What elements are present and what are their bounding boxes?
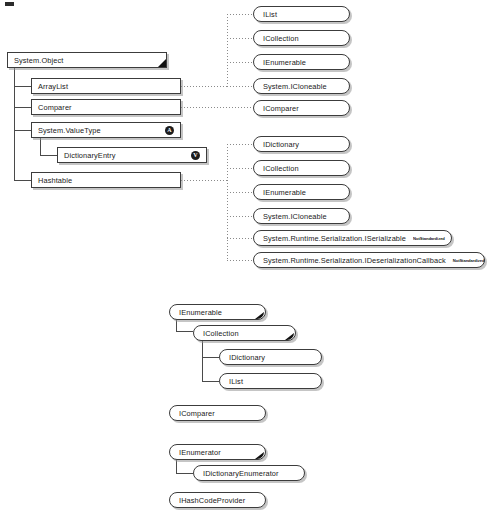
connector-stub-dictionaryentry	[40, 155, 57, 156]
abstract-badge-icon: A	[165, 126, 174, 135]
connector-stub-idictionary-bottom	[202, 357, 219, 358]
fold-corner-icon	[158, 59, 166, 67]
class-box-comparer[interactable]: Comparer	[31, 99, 181, 115]
interface-pill-ienumerator[interactable]: IEnumerator	[169, 444, 266, 460]
interface-pill-iserializable[interactable]: System.Runtime.Serialization.ISerializab…	[253, 230, 452, 246]
not-standardized-tag: NotStandardized	[413, 236, 445, 241]
interface-pill-idictionary-hashtable[interactable]: IDictionary	[253, 136, 350, 152]
connector-stub-idictionaryenumerator	[176, 473, 193, 474]
interface-label: IEnumerator	[179, 448, 221, 457]
interface-label: IHashCodeProvider	[179, 496, 245, 505]
interface-label: IList	[229, 377, 243, 386]
interface-pill-icomparer-top[interactable]: IComparer	[253, 100, 350, 116]
interface-pill-system-icloneable-hashtable[interactable]: System.ICloneable	[253, 208, 350, 224]
interface-label: IComparer	[179, 409, 215, 418]
dotted-stub-ienumerable-2	[227, 192, 253, 193]
interface-pill-icollection-bottom[interactable]: ICollection	[193, 325, 296, 341]
class-label: Comparer	[38, 103, 72, 112]
connector-trunk-icollection-bottom	[202, 339, 203, 381]
interface-label: IComparer	[263, 104, 299, 113]
dotted-connector-hashtable	[181, 180, 227, 181]
interface-label: System.Runtime.Serialization.ISerializab…	[263, 234, 406, 243]
connector-stub-arraylist	[14, 86, 31, 87]
class-label: System.ValueType	[38, 126, 101, 135]
class-label: DictionaryEntry	[64, 151, 116, 160]
class-box-hashtable[interactable]: Hashtable	[31, 172, 181, 188]
interface-label: ICollection	[263, 164, 299, 173]
interface-pill-idictionary-bottom[interactable]: IDictionary	[219, 349, 322, 365]
interface-pill-icomparer-bottom[interactable]: IComparer	[169, 405, 266, 421]
dotted-stub-iserializable	[227, 238, 253, 239]
class-box-arraylist[interactable]: ArrayList	[31, 78, 181, 94]
fold-corner-icon	[255, 312, 264, 319]
interface-label: IDictionary	[229, 353, 265, 362]
connector-trunk-valuetype	[40, 138, 41, 155]
dotted-stub-idictionary	[227, 144, 253, 145]
interface-pill-ideserializationcallback[interactable]: System.Runtime.Serialization.IDeserializ…	[253, 252, 485, 268]
class-box-dictionaryentry[interactable]: DictionaryEntry V	[57, 147, 207, 163]
interface-label: ICollection	[203, 329, 239, 338]
interface-pill-icollection-top[interactable]: ICollection	[253, 30, 350, 46]
connector-stub-ilist-bottom	[202, 381, 219, 382]
connector-stub-comparer	[14, 107, 31, 108]
interface-pill-system-icloneable-top[interactable]: System.ICloneable	[253, 78, 350, 94]
connector-stub-valuetype	[14, 130, 31, 131]
interface-pill-ihashcodeprovider[interactable]: IHashCodeProvider	[169, 492, 266, 508]
scan-artifact	[5, 2, 14, 6]
interface-pill-ienumerable-hashtable[interactable]: IEnumerable	[253, 184, 350, 200]
interface-label: ICollection	[263, 34, 299, 43]
fold-corner-icon	[255, 452, 264, 459]
class-diagram-canvas: System.Object ArrayList Comparer System.…	[0, 0, 489, 511]
interface-label: IDictionary	[263, 140, 299, 149]
dotted-bus-hashtable	[227, 144, 228, 260]
dotted-stub-icollection-1	[227, 38, 253, 39]
class-label: Hashtable	[38, 176, 72, 185]
connector-trunk-object	[14, 66, 15, 180]
fold-corner-icon	[285, 333, 294, 340]
dotted-bus-arraylist	[227, 14, 228, 86]
dotted-stub-ilist	[227, 14, 253, 15]
interface-label: IDictionaryEnumerator	[203, 469, 279, 478]
interface-label: IEnumerable	[179, 308, 222, 317]
class-label: System.Object	[14, 56, 63, 65]
class-label: ArrayList	[38, 82, 68, 91]
dotted-connector-comparer	[181, 107, 253, 108]
dotted-stub-ideserializationcallback	[227, 260, 253, 261]
interface-pill-icollection-hashtable[interactable]: ICollection	[253, 160, 350, 176]
dotted-connector-arraylist	[181, 86, 227, 87]
not-standardized-tag: NotStandardized	[453, 258, 485, 263]
interface-label: System.Runtime.Serialization.IDeserializ…	[263, 256, 446, 265]
interface-label: System.ICloneable	[263, 212, 327, 221]
class-box-system-valuetype[interactable]: System.ValueType A	[31, 122, 181, 138]
connector-stub-icollection-bottom	[176, 331, 193, 332]
interface-pill-ilist-bottom[interactable]: IList	[219, 373, 322, 389]
interface-label: System.ICloneable	[263, 82, 327, 91]
dotted-stub-icloneable-1	[227, 86, 253, 87]
interface-pill-ilist[interactable]: IList	[253, 6, 350, 22]
dotted-stub-icollection-2	[227, 168, 253, 169]
interface-label: IEnumerable	[263, 188, 306, 197]
interface-label: IList	[263, 10, 277, 19]
class-box-system-object[interactable]: System.Object	[7, 52, 167, 68]
dotted-stub-icloneable-2	[227, 216, 253, 217]
interface-label: IEnumerable	[263, 58, 306, 67]
connector-stub-hashtable	[14, 180, 31, 181]
valuetype-badge-icon: V	[191, 151, 200, 160]
interface-pill-idictionaryenumerator[interactable]: IDictionaryEnumerator	[193, 465, 305, 481]
interface-pill-ienumerable-top[interactable]: IEnumerable	[253, 54, 350, 70]
interface-pill-ienumerable-bottom[interactable]: IEnumerable	[169, 304, 266, 320]
dotted-stub-ienumerable-1	[227, 62, 253, 63]
